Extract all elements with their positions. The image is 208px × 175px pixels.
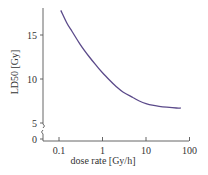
y-tick-label: 5	[32, 118, 37, 129]
x-tick-label: 10	[141, 145, 151, 156]
y-axis-title: LD50 [Gy]	[9, 50, 20, 95]
y-tick-label: 10	[27, 74, 37, 85]
x-axis-title: dose rate [Gy/h]	[71, 155, 136, 166]
y-axis	[42, 8, 45, 141]
ld50-curve	[61, 10, 181, 108]
chart: 051015 0.1110100 dose rate [Gy/h] LD50 […	[0, 0, 208, 175]
y-tick-label: 15	[27, 30, 37, 41]
y-ticks: 051015	[27, 30, 43, 145]
x-ticks: 0.1110100	[53, 137, 197, 156]
x-tick-label: 100	[182, 145, 197, 156]
y-tick-label: 0	[32, 134, 37, 145]
x-tick-label: 0.1	[53, 145, 66, 156]
